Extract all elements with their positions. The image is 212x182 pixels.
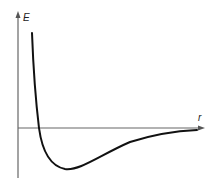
x-axis-arrow-icon xyxy=(198,126,205,131)
y-axis-arrow-icon xyxy=(16,11,21,18)
x-axis-label: r xyxy=(198,112,202,123)
energy-curve xyxy=(32,33,197,169)
y-axis-label: E xyxy=(23,12,30,23)
potential-energy-chart: E r xyxy=(0,0,212,182)
